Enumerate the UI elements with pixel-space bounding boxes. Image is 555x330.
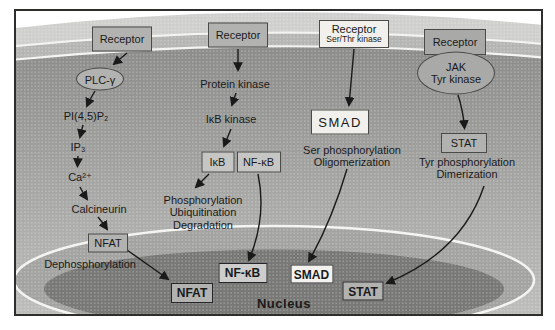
nucleus-label: Nucleus bbox=[257, 297, 311, 310]
tyr-phosphorylation-line: Tyr phosphorylation bbox=[419, 155, 515, 168]
stat-cytoplasm-box: STAT bbox=[441, 133, 487, 153]
jak-label: JAK bbox=[446, 61, 466, 73]
smad-nucleus-box: SMAD bbox=[290, 265, 333, 284]
ikb-label: IκB bbox=[210, 156, 226, 168]
degradation-line: Degradation bbox=[164, 219, 243, 232]
ser-phosphorylation-line: Ser phosphorylation bbox=[303, 143, 401, 156]
smad-nucleus-label: SMAD bbox=[294, 268, 329, 280]
jak-tyr-kinase-ellipse: JAK Tyr kinase bbox=[417, 51, 495, 94]
degradation-text-block: Phosphorylation Ubiquitination Degradati… bbox=[164, 194, 243, 232]
tyr-kinase-label: Tyr kinase bbox=[431, 73, 481, 85]
nfkb-nucleus-label: NF-κB bbox=[225, 267, 260, 279]
phosphorylation-line: Phosphorylation bbox=[164, 194, 243, 207]
nfat-nucleus-box: NFAT bbox=[171, 283, 213, 303]
stat-nucleus-label: STAT bbox=[348, 285, 378, 297]
nfkb-cytoplasm-box: NF-κB bbox=[237, 151, 281, 172]
smad-cytoplasm-box: SMAD bbox=[311, 110, 369, 135]
nfkb-label: NF-κB bbox=[243, 156, 274, 168]
receptor-label: Receptor bbox=[100, 33, 145, 45]
smad-label: SMAD bbox=[318, 116, 362, 128]
labels-layer: Receptor PLC-γ PI(4,5)P₂ IP₃ Ca²⁺ Calcin… bbox=[0, 0, 555, 330]
plc-gamma-label: PLC-γ bbox=[85, 73, 116, 85]
ikb-kinase-label: IκB kinase bbox=[206, 113, 257, 126]
oligomerization-line: Oligomerization bbox=[303, 156, 401, 169]
ubiquitination-line: Ubiquitination bbox=[164, 206, 243, 219]
receptor-label: Receptor bbox=[433, 36, 478, 48]
receptor-label: Receptor bbox=[216, 29, 261, 41]
plc-gamma-ellipse: PLC-γ bbox=[76, 68, 124, 91]
stat-nucleus-box: STAT bbox=[343, 282, 384, 301]
stat-process-text-block: Tyr phosphorylation Dimerization bbox=[419, 155, 515, 180]
receptor-box-smad-pathway: Receptor Ser/Thr kinase bbox=[319, 20, 389, 48]
dimerization-line: Dimerization bbox=[419, 168, 515, 181]
receptor-box-calcium-pathway: Receptor bbox=[92, 26, 152, 51]
nfat-nucleus-label: NFAT bbox=[177, 287, 207, 299]
ser-thr-kinase-label: Ser/Thr kinase bbox=[326, 35, 381, 45]
receptor-box-nfkb-pathway: Receptor bbox=[208, 22, 268, 47]
nfat-cytoplasm-box: NFAT bbox=[88, 233, 128, 252]
nfat-label: NFAT bbox=[94, 237, 121, 249]
dephosphorylation-label: Dephosphorylation bbox=[44, 258, 136, 271]
ikb-box: IκB bbox=[201, 151, 234, 172]
smad-process-text-block: Ser phosphorylation Oligomerization bbox=[303, 143, 401, 168]
signal-transduction-diagram: Receptor PLC-γ PI(4,5)P₂ IP₃ Ca²⁺ Calcin… bbox=[0, 0, 555, 330]
ip3-label: IP₃ bbox=[71, 141, 86, 154]
calcium-label: Ca²⁺ bbox=[68, 171, 92, 184]
nfkb-nucleus-box: NF-κB bbox=[218, 263, 267, 283]
protein-kinase-label: Protein kinase bbox=[200, 78, 270, 91]
stat-label: STAT bbox=[451, 137, 477, 149]
calcineurin-label: Calcineurin bbox=[71, 203, 126, 216]
pip2-label: PI(4,5)P₂ bbox=[64, 110, 109, 123]
